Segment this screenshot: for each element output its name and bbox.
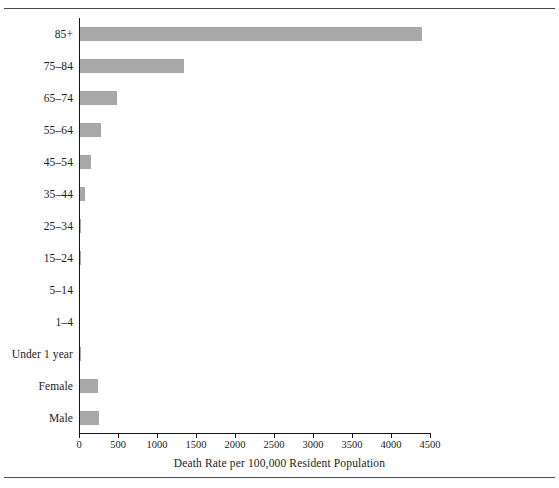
- x-axis-tick: [391, 433, 392, 438]
- x-axis-tick: [196, 433, 197, 438]
- bar-chart-plot: 85+75–8465–7455–6445–5435–4425–3415–245–…: [0, 0, 559, 488]
- bar: [80, 187, 85, 201]
- bar-row: 55–64: [0, 114, 559, 146]
- bar-row: 65–74: [0, 82, 559, 114]
- x-axis-tick-label: 4500: [400, 439, 460, 450]
- figure-container: 85+75–8465–7455–6445–5435–4425–3415–245–…: [0, 0, 559, 488]
- bar-row: 15–24: [0, 242, 559, 274]
- x-axis-tick: [235, 433, 236, 438]
- category-label: 15–24: [0, 242, 73, 274]
- category-label: 5–14: [0, 274, 73, 306]
- bar-row: 75–84: [0, 50, 559, 82]
- category-label: Female: [0, 370, 73, 402]
- x-axis-tick: [430, 433, 431, 438]
- bar-row: Under 1 year: [0, 338, 559, 370]
- category-label: 45–54: [0, 146, 73, 178]
- category-label: Under 1 year: [0, 338, 73, 370]
- x-axis-tick: [118, 433, 119, 438]
- bar: [80, 27, 422, 41]
- bar-row: 1–4: [0, 306, 559, 338]
- category-label: Male: [0, 402, 73, 434]
- bar-row: 85+: [0, 18, 559, 50]
- bar: [80, 347, 81, 361]
- x-axis-tick: [313, 433, 314, 438]
- x-axis-tick: [79, 433, 80, 438]
- bar: [80, 411, 99, 425]
- category-label: 85+: [0, 18, 73, 50]
- x-axis-tick: [352, 433, 353, 438]
- category-label: 65–74: [0, 82, 73, 114]
- bar-row: Female: [0, 370, 559, 402]
- bar-row: Male: [0, 402, 559, 434]
- category-label: 55–64: [0, 114, 73, 146]
- bar-row: 25–34: [0, 210, 559, 242]
- bar: [80, 219, 81, 233]
- x-axis-tick: [274, 433, 275, 438]
- bar: [80, 155, 91, 169]
- bar-row: 45–54: [0, 146, 559, 178]
- bar: [80, 379, 98, 393]
- bar-row: 5–14: [0, 274, 559, 306]
- category-label: 1–4: [0, 306, 73, 338]
- category-label: 35–44: [0, 178, 73, 210]
- category-label: 25–34: [0, 210, 73, 242]
- bar: [80, 91, 117, 105]
- category-label: 75–84: [0, 50, 73, 82]
- x-axis-tick: [157, 433, 158, 438]
- bar: [80, 123, 101, 137]
- x-axis-title: Death Rate per 100,000 Resident Populati…: [0, 457, 559, 469]
- bar: [80, 59, 184, 73]
- bar-row: 35–44: [0, 178, 559, 210]
